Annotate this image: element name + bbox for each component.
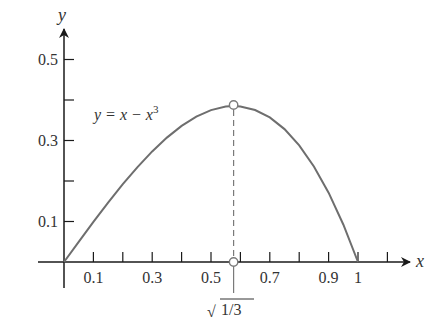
- chart-canvas: y x 0.1 0.3 0.5 0.7 0.9 1 0.1 0.3 0.5: [0, 0, 444, 331]
- x-tick-label: 1: [354, 269, 362, 286]
- curve-equation-label: y = x − x3: [92, 103, 159, 124]
- curve-x-minus-x-cubed: [64, 106, 358, 262]
- x-axis-label: x: [415, 251, 424, 271]
- x-tick-label: 0.3: [142, 269, 162, 286]
- y-axis-label: y: [56, 5, 66, 25]
- x-tick-label: 0.5: [201, 269, 221, 286]
- y-tick-label: 0.1: [38, 213, 58, 230]
- x-tick-label: 0.7: [260, 269, 280, 286]
- sqrt-one-third-label: √ 1/3: [207, 299, 254, 320]
- y-tick-label: 0.3: [38, 132, 58, 149]
- equation-exponent: 3: [153, 103, 159, 115]
- x-tick-label: 0.9: [319, 269, 339, 286]
- equation-text: y = x − x: [92, 106, 153, 124]
- x-tick-label: 0.1: [83, 269, 103, 286]
- y-tick-label: 0.5: [38, 51, 58, 68]
- y-ticks: [64, 60, 74, 222]
- max-point-marker: [229, 101, 237, 109]
- axis-point-marker: [229, 258, 237, 266]
- x-ticks: [93, 252, 387, 262]
- sqrt-symbol: √: [207, 303, 216, 320]
- sqrt-argument: 1/3: [221, 301, 241, 318]
